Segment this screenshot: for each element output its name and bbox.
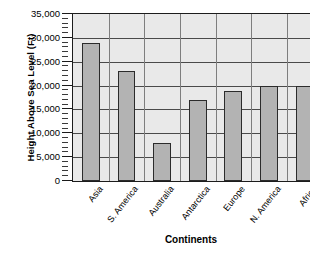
x-axis-tick-label-text: Africa [296, 184, 310, 208]
y-axis-minor-tick [62, 170, 68, 171]
y-axis-minor-tick [62, 89, 68, 90]
x-axis-tick-label-text: Antarctica [179, 184, 212, 222]
y-axis-major-tick [62, 180, 72, 181]
y-axis-minor-tick [62, 80, 68, 81]
x-axis-tick-label-text: S. America [106, 184, 141, 224]
y-axis-minor-tick [62, 137, 68, 138]
y-axis-minor-tick [62, 151, 68, 152]
y-axis-minor-tick [62, 147, 68, 148]
y-axis-tick-label: 5,000 [16, 151, 60, 162]
y-axis-major-tick [62, 37, 72, 38]
x-axis-tick-label-text: Australia [147, 184, 176, 218]
x-axis-tick-label-text: N. America [248, 184, 283, 225]
y-axis-tick-labels: 05,00010,00015,00020,00025,00030,00035,0… [16, 0, 60, 253]
y-axis-minor-tick [62, 75, 68, 76]
bar [82, 43, 100, 181]
y-axis-major-tick [62, 156, 72, 157]
y-axis-tick-label: 15,000 [16, 103, 60, 114]
x-axis-tick-label-text: Europe [221, 184, 247, 213]
y-axis-minor-tick [62, 166, 68, 167]
y-axis-major-tick [62, 85, 72, 86]
y-axis-minor-tick [62, 118, 68, 119]
bars-group [73, 14, 310, 181]
y-axis-minor-tick [62, 18, 68, 19]
x-axis-tick-label-text: Asia [86, 184, 105, 204]
y-axis-minor-tick [62, 175, 68, 176]
y-axis-minor-tick [62, 65, 68, 66]
y-axis-minor-tick [62, 104, 68, 105]
y-axis-minor-tick [62, 128, 68, 129]
y-axis-minor-tick [62, 42, 68, 43]
y-axis-tick-label: 30,000 [16, 31, 60, 42]
y-axis-minor-tick [62, 27, 68, 28]
y-axis-minor-tick [62, 23, 68, 24]
x-axis-tick-labels: AsiaS. AmericaAustraliaAntarcticaEuropeN… [72, 180, 310, 236]
y-axis-tick-marks [62, 13, 72, 180]
y-axis-major-tick [62, 132, 72, 133]
y-axis-tick-label: 25,000 [16, 55, 60, 66]
y-axis-minor-tick [62, 46, 68, 47]
y-axis-minor-tick [62, 99, 68, 100]
bar [118, 71, 136, 181]
y-axis-minor-tick [62, 113, 68, 114]
y-axis-tick-label: 35,000 [16, 8, 60, 19]
y-axis-minor-tick [62, 56, 68, 57]
y-axis-major-tick [62, 61, 72, 62]
x-axis-title: Continents [72, 234, 310, 245]
y-axis-minor-tick [62, 70, 68, 71]
bar-chart: Height Above Sea Level (Ft) 05,00010,000… [0, 0, 310, 253]
y-axis-minor-tick [62, 94, 68, 95]
y-axis-major-tick [62, 108, 72, 109]
y-axis-minor-tick [62, 51, 68, 52]
y-axis-minor-tick [62, 123, 68, 124]
y-axis-tick-label: 0 [16, 175, 60, 186]
y-axis-minor-tick [62, 32, 68, 33]
y-axis-minor-tick [62, 161, 68, 162]
y-axis-tick-label: 20,000 [16, 79, 60, 90]
y-axis-major-tick [62, 13, 72, 14]
y-axis-minor-tick [62, 142, 68, 143]
y-axis-tick-label: 10,000 [16, 127, 60, 138]
